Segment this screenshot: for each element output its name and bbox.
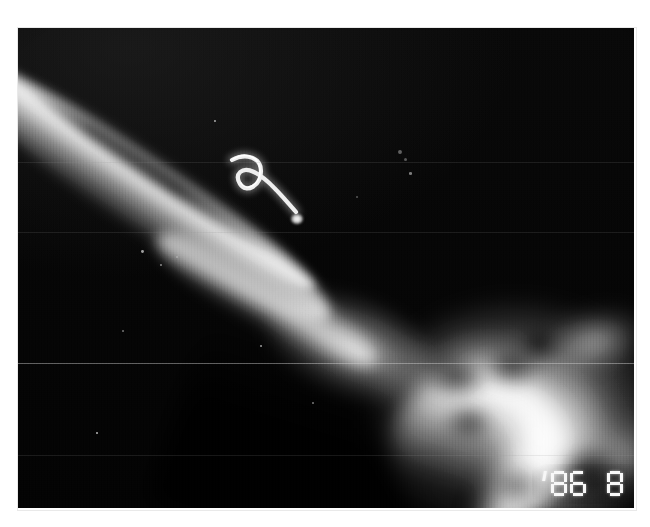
seg-e <box>551 484 554 493</box>
month-digit-1 <box>607 471 623 496</box>
seg-e <box>607 484 610 493</box>
date-stamp-apostrophe <box>542 471 549 482</box>
scan-line-4 <box>18 455 634 456</box>
seg-d <box>573 493 583 496</box>
seg-f <box>570 473 573 482</box>
film-speck-3 <box>409 172 412 175</box>
seg-d <box>610 493 620 496</box>
seg-g <box>554 482 564 485</box>
date-stamp-month <box>607 471 626 496</box>
seg-b <box>564 473 567 482</box>
scan-line-1 <box>18 162 634 163</box>
seg-g <box>610 482 620 485</box>
film-speck-12 <box>214 120 216 122</box>
curved-wire-implant <box>18 28 634 508</box>
page-canvas <box>0 0 650 527</box>
radiograph-plate <box>18 28 634 508</box>
date-stamp-year <box>551 471 589 496</box>
seg-f <box>551 473 554 482</box>
seg-c <box>620 484 623 493</box>
seg-a <box>573 471 583 474</box>
film-speck-7 <box>176 256 178 258</box>
film-speck-8 <box>122 330 124 332</box>
seg-a <box>610 471 620 474</box>
seg-e <box>570 484 573 493</box>
seg-c <box>583 484 586 493</box>
wire-implant-tip <box>290 213 304 225</box>
seg-f <box>607 473 610 482</box>
film-speck-11 <box>96 432 98 434</box>
year-digit-2 <box>570 471 586 496</box>
year-digit-1 <box>551 471 567 496</box>
film-speck-10 <box>312 402 314 404</box>
film-speck-5 <box>141 250 144 253</box>
seg-a <box>554 471 564 474</box>
seg-b <box>620 473 623 482</box>
seg-c <box>564 484 567 493</box>
seg-g <box>573 482 583 485</box>
scan-line-3 <box>18 363 634 364</box>
scan-line-2 <box>18 232 634 233</box>
camera-date-stamp <box>542 471 634 496</box>
seg-d <box>554 493 564 496</box>
